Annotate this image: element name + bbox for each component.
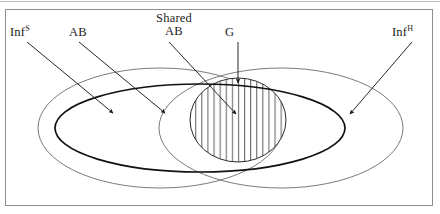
arrow-inf-h bbox=[350, 42, 412, 114]
arrow-ab bbox=[79, 42, 165, 113]
label-ab: AB bbox=[69, 26, 87, 39]
label-shared-ab-line2: AB bbox=[146, 25, 202, 38]
label-shared-ab: Shared AB bbox=[146, 12, 202, 38]
venn-diagram-canvas bbox=[0, 0, 440, 214]
label-inf-h: InfH bbox=[392, 26, 413, 39]
label-inf-s-base: Inf bbox=[10, 25, 25, 39]
label-inf-s: InfS bbox=[10, 26, 30, 39]
arrow-inf-s bbox=[27, 42, 113, 113]
shared-ab-hatched-region bbox=[190, 78, 286, 162]
label-inf-h-base: Inf bbox=[392, 25, 407, 39]
label-inf-h-sup: H bbox=[407, 24, 413, 33]
label-inf-s-sup: S bbox=[25, 24, 30, 33]
label-g: G bbox=[225, 26, 234, 39]
figure-root: InfS AB Shared AB G InfH bbox=[0, 0, 440, 214]
